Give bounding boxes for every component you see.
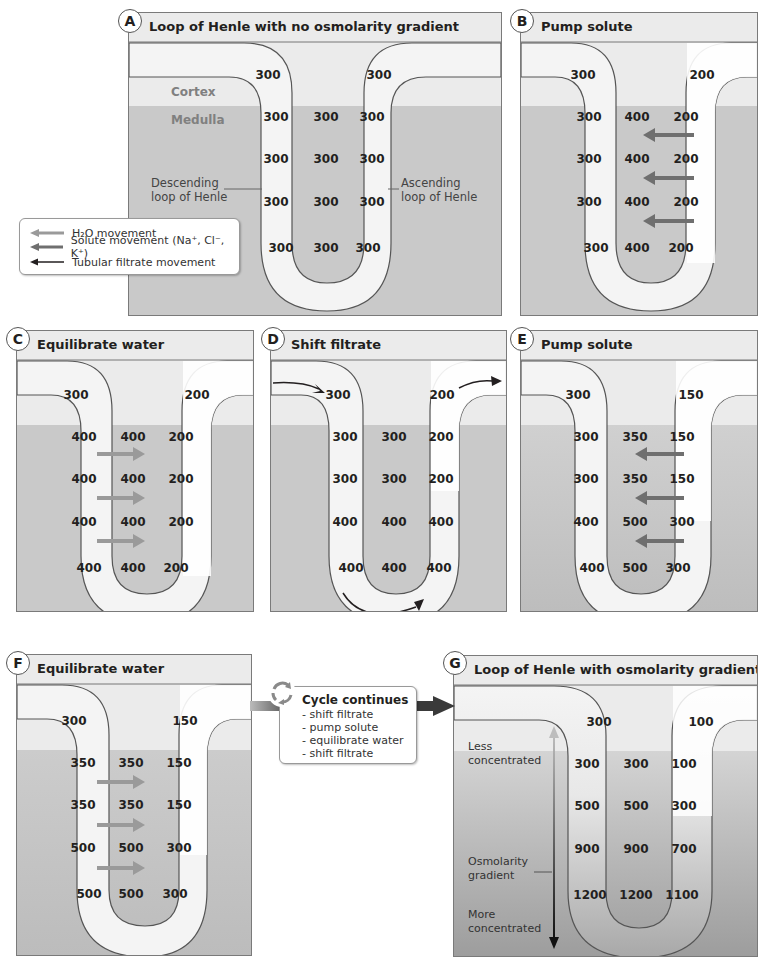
panel-b-badge: B: [510, 9, 534, 33]
solute-arrow-icon: [30, 242, 63, 252]
more-concentrated-label: Moreconcentrated: [468, 908, 541, 936]
legend-item-filtrate: Tubular filtrate movement: [30, 255, 215, 269]
cycle-step: - shift filtrate: [302, 747, 373, 760]
panel-d-badge: D: [261, 327, 285, 351]
panel-d: Shift filtrate 300 200 300 300 200 300 3…: [270, 330, 507, 612]
panel-a-badge: A: [118, 9, 142, 33]
less-concentrated-label: Lessconcentrated: [468, 740, 541, 768]
panel-g: Loop of Henle with osmolarity gradient L…: [453, 655, 758, 957]
cycle-continues-box: Cycle continues - shift filtrate - pump …: [279, 686, 417, 764]
panel-e-badge: E: [510, 327, 534, 351]
cycle-step: - pump solute: [302, 721, 378, 734]
legend: H₂O movement Solute movement (Na⁺, Cl⁻, …: [19, 218, 240, 275]
panel-f-badge: F: [6, 651, 30, 675]
h2o-arrow-icon: [30, 228, 64, 238]
ascending-loop-label: Ascendingloop of Henle: [401, 176, 477, 204]
panel-c: Equilibrate water 300 200 400 400 200 40…: [16, 330, 254, 612]
descending-loop-label: Descendingloop of Henle: [151, 176, 227, 204]
panel-e: Pump solute 300 150 300 350 150 300 350 …: [520, 330, 758, 612]
cycle-arrows-icon: [268, 679, 296, 707]
panel-b: Pump solute 300 200 300 400 200 300 400 …: [520, 12, 758, 316]
panel-c-badge: C: [6, 327, 30, 351]
filtrate-arrow-icon: [30, 257, 64, 267]
cortex-label: Cortex: [171, 85, 216, 99]
panel-f: Equilibrate water 300 150 350 350 150 35…: [16, 654, 252, 956]
osmolarity-gradient-label: Osmolaritygradient: [468, 855, 528, 883]
cycle-title: Cycle continues: [302, 693, 408, 707]
medulla-label: Medulla: [171, 113, 225, 127]
cycle-step: - equilibrate water: [302, 734, 404, 747]
panel-g-badge: G: [443, 651, 467, 675]
cycle-step: - shift filtrate: [302, 708, 373, 721]
legend-item-solute: Solute movement (Na⁺, Cl⁻, K⁺): [30, 240, 239, 254]
gradient-arrow-icon: [549, 726, 559, 949]
